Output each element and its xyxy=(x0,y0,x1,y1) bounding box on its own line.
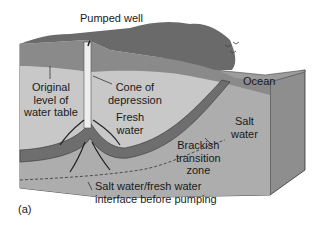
original-water-table-label: Original level of water table xyxy=(24,81,78,119)
label-line: depression xyxy=(108,94,162,107)
label-line: zone xyxy=(176,164,221,177)
label-line: water table xyxy=(24,106,78,119)
cone-of-depression-label: Cone of depression xyxy=(108,81,162,106)
label-line: transition xyxy=(176,152,221,165)
label-line: water xyxy=(116,124,144,137)
interface-before-pumping-label: Salt water/fresh water interface before … xyxy=(95,180,217,205)
label-line: Original xyxy=(24,81,78,94)
panel-label: (a) xyxy=(18,203,31,216)
label-line: level of xyxy=(24,94,78,107)
salt-water-label: Salt water xyxy=(231,115,258,140)
label-line: Cone of xyxy=(108,81,162,94)
fresh-water-label: Fresh water xyxy=(116,111,144,136)
well-pipe xyxy=(84,42,91,128)
label-line: Salt xyxy=(231,115,258,128)
pumped-well-label: Pumped well xyxy=(80,12,143,25)
ocean-label: Ocean xyxy=(243,75,275,88)
label-line: Brackish xyxy=(176,139,221,152)
block-side-face xyxy=(270,70,305,195)
label-line: Fresh xyxy=(116,111,144,124)
label-line: interface before pumping xyxy=(95,193,217,206)
brackish-transition-zone-label: Brackish transition zone xyxy=(176,139,221,177)
label-line: water xyxy=(231,128,258,141)
label-line: Salt water/fresh water xyxy=(95,180,217,193)
